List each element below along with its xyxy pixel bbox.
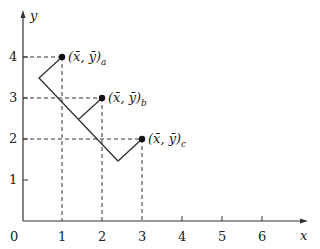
branch-path <box>79 98 102 119</box>
y-axis-label: y <box>29 8 38 23</box>
centroid-point-c <box>139 136 145 142</box>
dashed-guides <box>23 57 142 221</box>
svg-text:2: 2 <box>9 131 17 146</box>
x-ticks: 1 2 3 4 5 6 <box>58 216 266 244</box>
x-axis-arrow-icon <box>300 219 308 224</box>
y-axis-arrow-icon <box>21 10 26 18</box>
origin-label: 0 <box>10 229 18 244</box>
svg-text:6: 6 <box>258 229 266 244</box>
svg-text:5: 5 <box>218 229 226 244</box>
centroid-point-b <box>99 95 105 101</box>
svg-text:3: 3 <box>138 229 146 244</box>
point-label-a: (x̄, ȳ)a <box>68 49 106 67</box>
centroid-diagram: y x 0 1 2 3 4 1 2 3 4 5 6 (x̄, ȳ <box>0 0 320 249</box>
svg-text:3: 3 <box>9 90 17 105</box>
svg-text:4: 4 <box>178 229 186 244</box>
point-label-b: (x̄, ȳ)b <box>108 90 147 108</box>
centroid-point-a <box>59 54 65 60</box>
x-axis-label: x <box>300 228 308 243</box>
svg-text:4: 4 <box>9 49 17 64</box>
svg-text:1: 1 <box>58 229 66 244</box>
point-label-c: (x̄, ȳ)c <box>148 131 186 149</box>
svg-text:2: 2 <box>98 229 106 244</box>
svg-text:1: 1 <box>9 172 17 187</box>
y-ticks: 1 2 3 4 <box>9 49 28 187</box>
